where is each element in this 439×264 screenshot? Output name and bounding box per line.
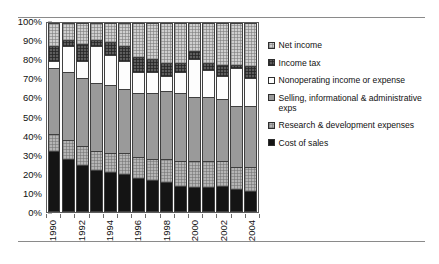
x-axis-tick-label: 1994 [105,220,115,241]
y-axis-tick-label: 30% [23,151,42,161]
bar-segment-rnd [230,167,243,190]
bar-segment-cos [90,170,103,212]
y-axis-tick-label: 60% [23,94,42,104]
legend-item-net[interactable]: Net income [268,40,436,50]
bar-segment-cos [160,182,173,212]
bar-segment-sga [132,93,145,157]
bar-segment-rnd [104,153,117,172]
bar-1996 [132,23,145,212]
bar-1994 [104,23,117,212]
bar-segment-tax [188,51,201,59]
bar-segment-cos [104,172,117,212]
bar-2002 [216,23,229,212]
y-axis-tick-label: 20% [23,170,42,180]
bar-segment-nonop [48,61,61,69]
bar-segment-net [146,23,159,59]
legend-item-nonop[interactable]: Nonoperating income or expense [268,75,436,85]
x-axis-tick-mark [60,214,61,218]
bar-segment-net [90,23,103,40]
bar-segment-cos [48,151,61,211]
bar-segment-cos [230,189,243,212]
bar-segment-cos [188,187,201,212]
bar-segment-tax [146,59,159,72]
x-axis-tick-mark [74,214,75,218]
x-axis-tick-mark [216,214,217,218]
bar-segment-net [244,23,257,66]
bar-segment-rnd [244,167,257,192]
bar-segment-net [216,23,229,65]
bar-segment-tax [76,44,89,61]
bar-segment-sga [118,89,131,153]
bar-segment-tax [160,63,173,76]
legend-item-label: Net income [279,40,322,50]
legend-swatch-icon [268,94,275,101]
legend-item-label: Cost of sales [279,138,329,148]
bar-segment-nonop [76,61,89,78]
bar-segment-cos [244,191,257,212]
x-axis-tick-label: 1998 [162,220,172,241]
bar-segment-cos [146,180,159,212]
y-axis-tick-label: 50% [23,113,42,123]
bar-segment-rnd [174,161,187,186]
legend-item-sga[interactable]: Selling, informational & administrative … [268,93,436,113]
bar-segment-tax [202,63,215,71]
bar-segment-rnd [48,134,61,151]
bar-segment-cos [132,178,145,212]
bar-segment-rnd [216,161,229,186]
bar-segment-net [118,23,131,46]
bar-2003 [230,23,243,212]
y-axis-tick-label: 40% [23,132,42,142]
bar-segment-net [174,23,187,63]
bar-segment-tax [132,57,145,72]
bar-1991 [62,23,75,212]
bar-segment-net [104,23,117,42]
x-axis-tick-mark [231,214,232,218]
bar-2001 [202,23,215,212]
x-axis-tick-label: 1992 [77,220,87,241]
bar-1998 [160,23,173,212]
y-axis-tick-label: 10% [23,189,42,199]
legend-item-cos[interactable]: Cost of sales [268,138,436,148]
legend-item-label: Income tax [279,58,321,68]
bar-segment-net [76,23,89,44]
bar-segment-net [132,23,145,57]
legend-item-label: Research & development expenses [279,120,415,130]
bar-segment-cos [174,186,187,212]
legend-swatch-icon [268,42,275,49]
x-axis-tick-label: 2000 [190,220,200,241]
bar-segment-nonop [216,76,229,99]
bar-segment-sga [90,83,103,151]
bar-segment-tax [216,65,229,76]
bar-segment-sga [62,72,75,140]
x-axis-tick-label: 1996 [133,220,143,241]
bar-segment-nonop [118,61,131,89]
bar-segment-sga [104,85,117,153]
bar-segment-cos [202,187,215,212]
bar-segment-net [62,23,75,40]
x-axis-tick-mark [46,214,47,218]
bar-segment-tax [104,42,117,55]
x-axis-tick-mark [131,214,132,218]
bar-segment-rnd [146,159,159,180]
y-axis-tick-label: 80% [23,55,42,65]
legend-item-rnd[interactable]: Research & development expenses [268,120,436,130]
legend-swatch-icon [268,139,275,146]
bar-1995 [118,23,131,212]
bar-2000 [188,23,201,212]
bar-segment-nonop [188,59,201,97]
bar-segment-nonop [160,76,173,91]
legend-item-tax[interactable]: Income tax [268,58,436,68]
x-axis-tick-mark [103,214,104,218]
bar-1993 [90,23,103,212]
x-axis-tick-mark [188,214,189,218]
bar-segment-net [48,23,61,46]
bar-segment-rnd [202,161,215,187]
legend-swatch-icon [268,59,275,66]
x-axis-tick-mark [160,214,161,218]
x-axis-tick-mark [259,214,260,218]
bar-segment-cos [76,165,89,212]
x-axis-tick-label: 1990 [48,220,58,241]
bar-segment-sga [230,106,243,166]
bar-segment-nonop [244,78,257,106]
bar-segment-sga [174,93,187,161]
